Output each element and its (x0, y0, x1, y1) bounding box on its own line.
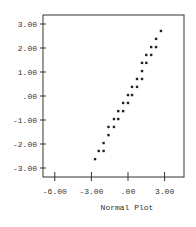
y-tick-label: -3.00 (13, 164, 37, 173)
data-point (117, 110, 119, 112)
data-point (155, 46, 157, 48)
data-point (131, 86, 133, 88)
normal-plot-chart: 3.002.001.00.00-1.00-2.00-3.00 -6.00-3.0… (0, 0, 196, 227)
data-point (145, 54, 147, 56)
data-point (102, 150, 104, 152)
x-tick-label: 3.00 (155, 187, 174, 196)
x-tick-label: .00 (121, 187, 136, 196)
plot-frame (43, 15, 184, 177)
x-tick-label: -3.00 (79, 187, 103, 196)
y-tick-label: 3.00 (18, 20, 37, 29)
data-point (136, 86, 138, 88)
data-point (127, 102, 129, 104)
data-point (102, 142, 104, 144)
data-point (127, 94, 129, 96)
data-point (155, 38, 157, 40)
x-axis: -6.00-3.00.003.00 (43, 172, 175, 196)
data-point (141, 62, 143, 64)
data-point (160, 30, 162, 32)
data-point (94, 158, 96, 160)
data-point (131, 94, 133, 96)
data-point (145, 62, 147, 64)
data-point (141, 70, 143, 72)
data-points (94, 30, 162, 161)
data-point (117, 118, 119, 120)
y-tick-label: 1.00 (18, 68, 37, 77)
data-point (107, 126, 109, 128)
y-axis: 3.002.001.00.00-1.00-2.00-3.00 (13, 20, 46, 173)
data-point (122, 102, 124, 104)
x-axis-title: Normal Plot (101, 203, 154, 212)
data-point (150, 54, 152, 56)
data-point (107, 134, 109, 136)
data-point (122, 110, 124, 112)
x-tick-label: -6.00 (43, 187, 67, 196)
y-tick-label: -2.00 (13, 140, 37, 149)
y-tick-label: -1.00 (13, 116, 37, 125)
data-point (113, 118, 115, 120)
data-point (141, 78, 143, 80)
data-point (113, 126, 115, 128)
data-point (150, 46, 152, 48)
data-point (98, 150, 100, 152)
y-tick-label: .00 (23, 92, 38, 101)
data-point (136, 78, 138, 80)
y-tick-label: 2.00 (18, 44, 37, 53)
